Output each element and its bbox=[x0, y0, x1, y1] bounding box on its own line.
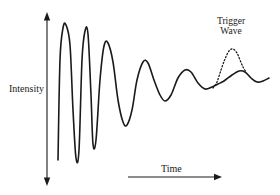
damped-oscillation-diagram: Intensity Time Trigger Wave bbox=[0, 0, 280, 195]
y-axis-arrowhead-up bbox=[44, 12, 50, 21]
x-axis-arrowhead-right bbox=[214, 174, 222, 180]
trigger-annotation-line2: Wave bbox=[205, 26, 257, 36]
y-axis-arrowhead-down bbox=[44, 178, 50, 187]
series-trigger-wave bbox=[213, 49, 246, 88]
trigger-wave-annotation: Trigger Wave bbox=[205, 16, 257, 37]
series-damped-oscillation bbox=[58, 23, 269, 163]
trigger-annotation-line1: Trigger bbox=[217, 16, 245, 26]
y-axis-label: Intensity bbox=[9, 83, 44, 94]
x-axis-label: Time bbox=[161, 163, 182, 174]
